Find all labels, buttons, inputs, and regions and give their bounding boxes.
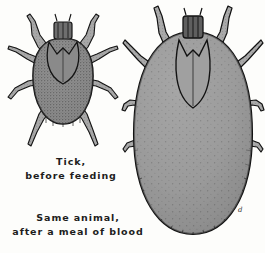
caption-engorged-line2: after a meal of blood [2,225,154,239]
illustration-plate: d Tick, before feeding Same animal, afte… [0,0,265,253]
engorged-tick-capitulum [183,8,203,38]
caption-unfed-line2: before feeding [6,169,136,183]
caption-unfed-tick: Tick, before feeding [6,155,136,182]
figure-unfed-tick [2,2,126,158]
caption-engorged-line1: Same animal, [2,211,154,225]
caption-engorged-tick: Same animal, after a meal of blood [2,211,154,238]
unfed-tick-capitulum [54,14,72,39]
caption-unfed-line1: Tick, [6,155,136,169]
artist-mark: d [238,206,243,214]
